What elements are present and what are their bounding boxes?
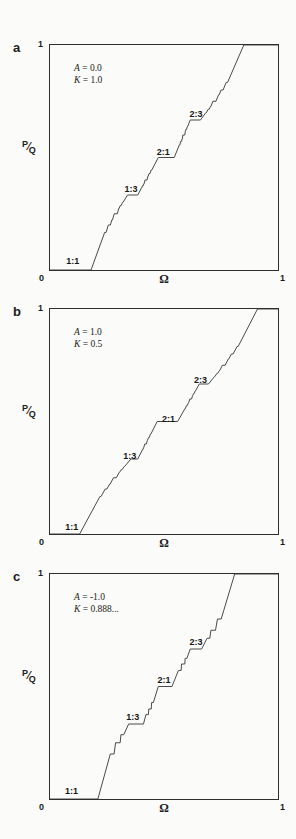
step-label-1-1: 1:1: [65, 786, 78, 796]
y-axis-label: P⁄Q: [22, 404, 37, 416]
step-label-1-1: 1:1: [65, 522, 78, 532]
x-axis-max-tick: 1: [280, 802, 285, 812]
y-axis-label-q: Q: [29, 674, 36, 684]
y-axis-label-p: P: [22, 139, 28, 149]
y-axis-label-p: P: [22, 668, 28, 678]
y-axis-max-tick: 1: [38, 568, 43, 578]
step-label-1-3: 1:3: [126, 712, 139, 722]
plot-box: 1 0 1 Ω P⁄Q A = 1.0 K = 0.5 1:11:32:12:3: [49, 308, 279, 535]
plot-box: 1 0 1 Ω P⁄Q A = -1.0 K = 0.888... 1:11:3…: [49, 573, 279, 800]
staircase-curve: [50, 574, 278, 799]
y-axis-label: P⁄Q: [22, 140, 37, 152]
step-label-2-1: 2:1: [162, 414, 175, 424]
step-label-1-3: 1:3: [124, 184, 137, 194]
staircase-curve: [50, 45, 278, 270]
x-axis-label: Ω: [159, 801, 169, 816]
step-label-2-1: 2:1: [157, 675, 170, 685]
step-label-1-1: 1:1: [66, 256, 79, 266]
step-label-2-3: 2:3: [189, 637, 202, 647]
y-axis-label-q: Q: [29, 145, 36, 155]
panel-c: c 1 0 1 Ω P⁄Q A = -1.0 K = 0.888... 1:11…: [0, 573, 296, 833]
y-axis-label-p: P: [22, 403, 28, 413]
x-axis-label: Ω: [159, 536, 169, 551]
y-axis-label: P⁄Q: [22, 669, 37, 681]
x-axis-max-tick: 1: [280, 537, 285, 547]
y-axis-max-tick: 1: [38, 39, 43, 49]
step-label-2-1: 2:1: [157, 147, 170, 157]
figure-page: { "figure": { "background": "#fbfbf9", "…: [0, 0, 296, 839]
plot-box: 1 0 1 Ω P⁄Q A = 0.0 K = 1.0 1:11:32:12:3: [49, 44, 279, 271]
step-label-2-3: 2:3: [194, 375, 207, 385]
step-label-1-3: 1:3: [123, 451, 136, 461]
origin-tick: 0: [39, 537, 44, 547]
y-axis-max-tick: 1: [38, 303, 43, 313]
panel-letter-a: a: [13, 40, 21, 55]
origin-tick: 0: [39, 273, 44, 283]
y-axis-label-q: Q: [29, 409, 36, 419]
x-axis-label: Ω: [159, 272, 169, 287]
step-label-2-3: 2:3: [189, 109, 202, 119]
panel-letter-b: b: [13, 304, 21, 319]
panel-b: b 1 0 1 Ω P⁄Q A = 1.0 K = 0.5 1:11:32:12…: [0, 308, 296, 568]
panel-letter-c: c: [13, 569, 21, 584]
origin-tick: 0: [39, 802, 44, 812]
panel-a: a 1 0 1 Ω P⁄Q A = 0.0 K = 1.0 1:11:32:12…: [0, 44, 296, 304]
x-axis-max-tick: 1: [280, 273, 285, 283]
